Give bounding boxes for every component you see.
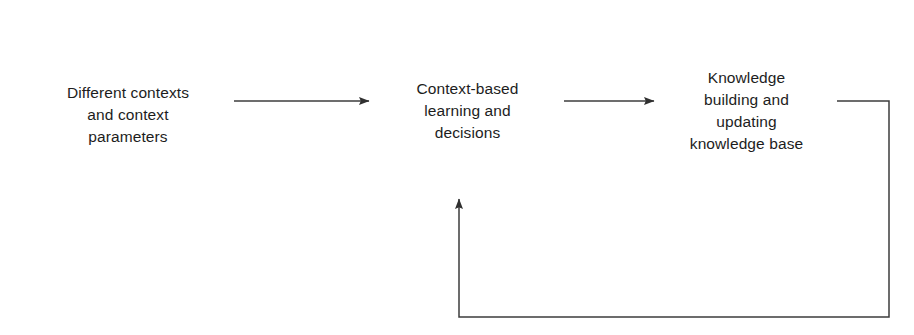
node-knowledge-building-label: Knowledge building and updating knowledg…	[684, 67, 809, 155]
diagram-canvas: Different contexts and context parameter…	[0, 0, 914, 335]
node-different-contexts-label: Different contexts and context parameter…	[61, 82, 195, 148]
node-knowledge-building: Knowledge building and updating knowledg…	[656, 27, 837, 194]
node-context-based-learning-label: Context-based learning and decisions	[410, 78, 524, 144]
node-context-based-learning: Context-based learning and decisions	[371, 26, 564, 196]
node-different-contexts: Different contexts and context parameter…	[22, 25, 234, 205]
